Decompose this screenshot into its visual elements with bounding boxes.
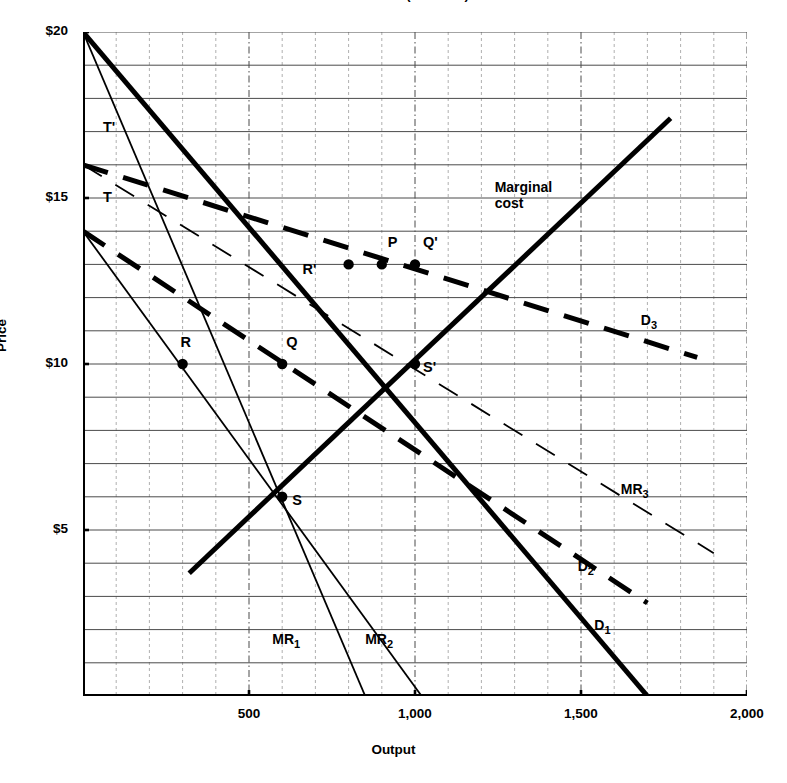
curve-label-D2: D2 — [578, 558, 594, 577]
curve-D2 — [83, 231, 647, 603]
point-label-S: S — [292, 492, 302, 508]
chart-figure: Exhibit 32-1A (Solution) Price Output $2… — [0, 0, 787, 783]
x-axis-tick-1500: 1,500 — [536, 706, 626, 721]
data-point-S — [277, 492, 287, 502]
data-point-R' — [343, 259, 353, 269]
y-axis-tick-5: $5 — [8, 521, 68, 536]
curve-label-D1: D1 — [594, 617, 610, 636]
x-axis-tick-500: 500 — [204, 706, 294, 721]
figure-title: Exhibit 32-1A (Solution) — [0, 0, 787, 2]
plot-svg — [83, 32, 747, 696]
y-axis-tick-20: $20 — [8, 23, 68, 38]
data-point-Q' — [410, 259, 420, 269]
point-label-P: P — [388, 234, 398, 250]
data-point-R — [177, 359, 187, 369]
curve-label-MR3: MR3 — [621, 481, 649, 500]
x-axis-tick-1000: 1,000 — [370, 706, 460, 721]
x-axis-tick-2000: 2,000 — [702, 706, 787, 721]
point-label-S': S' — [423, 359, 436, 375]
curve-label-D3: D3 — [641, 312, 657, 331]
data-point-S' — [410, 359, 420, 369]
data-point-Q — [277, 359, 287, 369]
plot-area — [83, 32, 747, 696]
point-label-R: R — [181, 334, 191, 350]
intercept-label-T: T — [103, 189, 112, 205]
curve-label-MR1: MR1 — [272, 631, 300, 650]
y-axis-tick-10: $10 — [8, 355, 68, 370]
point-label-Q: Q — [286, 334, 297, 350]
data-points — [177, 259, 420, 502]
intercept-label-T-prime: T' — [103, 119, 115, 135]
curve-label-MarginalCost: Marginalcost — [495, 179, 553, 211]
point-label-R': R' — [303, 261, 317, 277]
point-label-Q': Q' — [423, 234, 438, 250]
x-axis-title: Output — [0, 742, 787, 757]
figure-title-strip: Exhibit 32-1A (Solution) — [0, 0, 787, 10]
curve-label-MR2: MR2 — [365, 631, 393, 650]
data-point-P — [377, 259, 387, 269]
curve-MR3 — [83, 165, 714, 553]
y-axis-title: Price — [0, 319, 9, 352]
curve-D3 — [83, 165, 697, 358]
y-axis-tick-15: $15 — [8, 189, 68, 204]
